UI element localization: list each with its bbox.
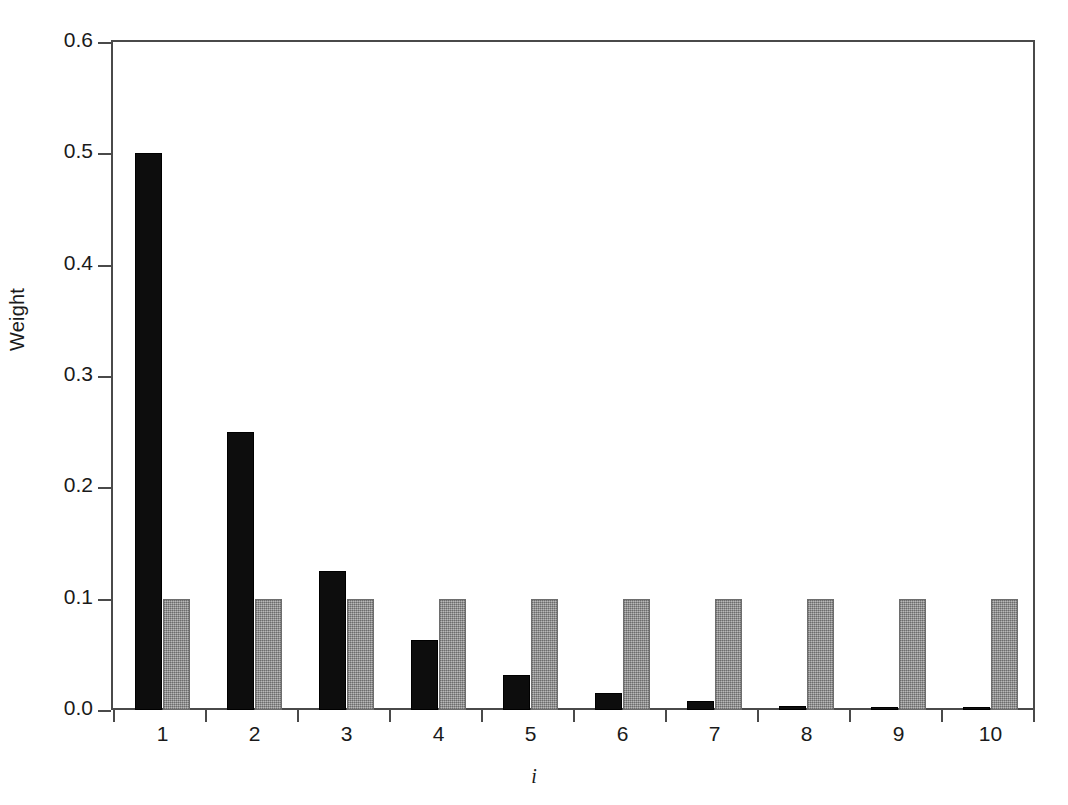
y-tick: 0.6 bbox=[0, 42, 111, 43]
x-tick-mark bbox=[941, 710, 943, 722]
bar-geometric-weights-4 bbox=[411, 640, 438, 710]
bar-uniform-weights-9 bbox=[899, 599, 926, 710]
bar-uniform-weights-4 bbox=[439, 599, 466, 710]
bar-uniform-weights-8 bbox=[807, 599, 834, 710]
x-tick-mark bbox=[757, 710, 759, 722]
bar-uniform-weights-2 bbox=[255, 599, 282, 710]
x-tick-mark bbox=[665, 710, 667, 722]
x-tick-label: 4 bbox=[399, 722, 479, 746]
y-tick-mark bbox=[98, 599, 111, 601]
y-tick: 0.2 bbox=[0, 487, 111, 488]
y-tick: 0.5 bbox=[0, 153, 111, 154]
y-tick-label: 0.0 bbox=[64, 696, 93, 720]
bar-geometric-weights-10 bbox=[963, 707, 990, 710]
bar-chart-figure: Weight 0.00.10.20.30.40.50.6 12345678910… bbox=[0, 0, 1068, 805]
bar-geometric-weights-1 bbox=[135, 153, 162, 710]
y-tick-mark bbox=[98, 710, 111, 712]
y-tick-label: 0.5 bbox=[64, 139, 93, 163]
x-tick-mark bbox=[573, 710, 575, 722]
y-tick-mark bbox=[98, 265, 111, 267]
bar-geometric-weights-2 bbox=[227, 432, 254, 710]
x-tick-mark bbox=[481, 710, 483, 722]
bar-geometric-weights-5 bbox=[503, 675, 530, 710]
x-tick-mark bbox=[1033, 710, 1035, 722]
bar-geometric-weights-8 bbox=[779, 706, 806, 710]
bar-uniform-weights-6 bbox=[623, 599, 650, 710]
bar-geometric-weights-7 bbox=[687, 701, 714, 710]
bar-uniform-weights-3 bbox=[347, 599, 374, 710]
y-tick: 0.4 bbox=[0, 265, 111, 266]
x-tick-label: 8 bbox=[767, 722, 847, 746]
y-tick-label: 0.2 bbox=[64, 473, 93, 497]
y-tick-mark bbox=[98, 153, 111, 155]
y-tick-mark bbox=[98, 487, 111, 489]
bar-geometric-weights-3 bbox=[319, 571, 346, 710]
y-tick-mark bbox=[98, 376, 111, 378]
x-axis-title: i bbox=[0, 765, 1068, 788]
x-tick-label: 3 bbox=[307, 722, 387, 746]
bar-geometric-weights-6 bbox=[595, 693, 622, 710]
y-tick: 0.1 bbox=[0, 599, 111, 600]
bar-uniform-weights-5 bbox=[531, 599, 558, 710]
bar-uniform-weights-10 bbox=[991, 599, 1018, 710]
x-tick-label: 1 bbox=[123, 722, 203, 746]
x-tick-label: 5 bbox=[491, 722, 571, 746]
x-tick-mark bbox=[205, 710, 207, 722]
x-tick-mark bbox=[849, 710, 851, 722]
y-axis-title: Weight bbox=[6, 231, 32, 351]
y-tick-label: 0.4 bbox=[64, 251, 93, 275]
y-tick-label: 0.6 bbox=[64, 28, 93, 52]
bars-layer bbox=[113, 42, 1033, 710]
x-tick-mark bbox=[389, 710, 391, 722]
x-tick-label: 6 bbox=[583, 722, 663, 746]
y-tick: 0.0 bbox=[0, 710, 111, 711]
y-tick: 0.3 bbox=[0, 376, 111, 377]
x-tick-label: 7 bbox=[675, 722, 755, 746]
bar-geometric-weights-9 bbox=[871, 707, 898, 710]
x-tick-label: 10 bbox=[951, 722, 1031, 746]
bar-uniform-weights-1 bbox=[163, 599, 190, 710]
x-tick-label: 2 bbox=[215, 722, 295, 746]
y-tick-label: 0.3 bbox=[64, 362, 93, 386]
y-tick-mark bbox=[98, 42, 111, 44]
x-tick-mark bbox=[113, 710, 115, 722]
bar-uniform-weights-7 bbox=[715, 599, 742, 710]
y-tick-label: 0.1 bbox=[64, 585, 93, 609]
x-tick-mark bbox=[297, 710, 299, 722]
x-tick-label: 9 bbox=[859, 722, 939, 746]
